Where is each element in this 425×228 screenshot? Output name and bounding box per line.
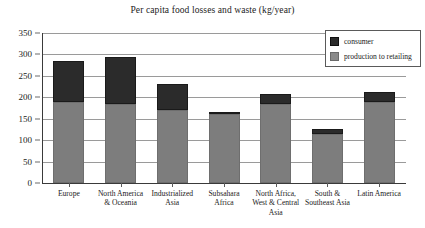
x-tick-mark xyxy=(379,183,380,187)
bar-segment-production[interactable] xyxy=(209,114,240,183)
bar-group[interactable] xyxy=(209,112,240,183)
bar-group[interactable] xyxy=(312,129,343,183)
x-axis-ticks xyxy=(43,183,405,188)
y-tick-mark xyxy=(35,97,40,98)
bar-group[interactable] xyxy=(157,84,188,183)
bar-group[interactable] xyxy=(53,61,84,183)
bar-group[interactable] xyxy=(260,94,291,183)
bar-segment-consumer[interactable] xyxy=(260,94,291,104)
y-tick-mark xyxy=(35,118,40,119)
x-tick-mark xyxy=(172,183,173,187)
x-tick-mark xyxy=(276,183,277,187)
legend-swatch-icon xyxy=(330,37,339,46)
y-tick-label: 150 xyxy=(19,114,33,124)
x-tick-mark xyxy=(224,183,225,187)
legend-item-consumer: consumer xyxy=(330,34,416,49)
y-tick-label: 100 xyxy=(19,135,33,145)
y-tick-mark xyxy=(35,183,40,184)
x-axis-label: North Africa, West & Central Asia xyxy=(250,189,302,217)
x-tick-mark xyxy=(69,183,70,187)
bar-segment-consumer[interactable] xyxy=(53,61,84,102)
x-tick-mark xyxy=(121,183,122,187)
bar-group[interactable] xyxy=(105,57,136,183)
x-axis-label: Latin America xyxy=(353,189,405,198)
chart-container: Per capita food losses and waste (kg/yea… xyxy=(0,0,425,228)
chart-legend: consumer production to retailing xyxy=(325,30,421,67)
y-tick-mark xyxy=(35,161,40,162)
x-axis-label: Europe xyxy=(43,189,95,198)
y-axis: 350 300 250 200 150 100 50 0 xyxy=(0,33,40,185)
x-axis-label: South & Southeast Asia xyxy=(302,189,354,208)
y-tick-label: 0 xyxy=(28,178,33,188)
x-axis-labels: EuropeNorth America & OceaniaIndustriali… xyxy=(43,189,405,228)
legend-item-production: production to retailing xyxy=(330,49,416,64)
legend-swatch-icon xyxy=(330,52,339,61)
x-axis-label: Subsahara Africa xyxy=(198,189,250,208)
y-tick-label: 350 xyxy=(19,28,33,38)
bar-segment-production[interactable] xyxy=(260,104,291,183)
bar-segment-production[interactable] xyxy=(312,134,343,183)
legend-label: consumer xyxy=(344,37,374,46)
bar-segment-consumer[interactable] xyxy=(105,57,136,104)
bar-segment-production[interactable] xyxy=(105,104,136,183)
chart-title: Per capita food losses and waste (kg/yea… xyxy=(0,5,425,15)
x-tick-mark xyxy=(327,183,328,187)
x-axis-label: Industrialized Asia xyxy=(146,189,198,208)
legend-label: production to retailing xyxy=(344,52,412,61)
bar-segment-production[interactable] xyxy=(157,110,188,183)
y-tick-mark xyxy=(35,140,40,141)
y-tick-mark xyxy=(35,75,40,76)
bar-segment-production[interactable] xyxy=(53,102,84,183)
y-tick-label: 50 xyxy=(23,157,32,167)
bar-segment-production[interactable] xyxy=(364,102,395,183)
bar-segment-consumer[interactable] xyxy=(364,92,395,102)
y-tick-label: 200 xyxy=(19,92,33,102)
y-tick-label: 250 xyxy=(19,71,33,81)
y-tick-mark xyxy=(35,54,40,55)
x-axis-label: North America & Oceania xyxy=(95,189,147,208)
bar-segment-consumer[interactable] xyxy=(157,84,188,110)
y-tick-label: 300 xyxy=(19,49,33,59)
bar-group[interactable] xyxy=(364,92,395,183)
y-tick-mark xyxy=(35,33,40,34)
